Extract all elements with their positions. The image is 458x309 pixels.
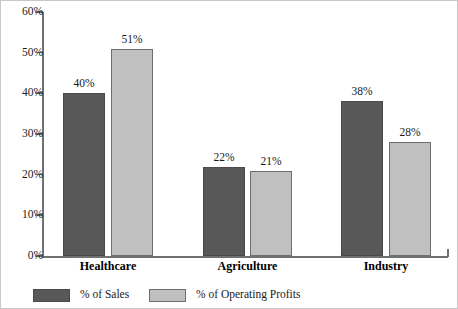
bar-value-label: 21%	[241, 156, 301, 168]
legend-label: % of Operating Profits	[196, 289, 300, 301]
x-axis-end-tick	[447, 249, 449, 257]
category-label: Industry	[316, 260, 456, 272]
bar	[341, 101, 383, 256]
category-label: Agriculture	[178, 260, 318, 272]
x-axis-line	[42, 256, 448, 258]
bar-value-label: 40%	[54, 78, 114, 90]
bar	[63, 93, 105, 256]
y-axis-tick-label: 40%	[11, 87, 43, 99]
legend-swatch	[33, 289, 70, 302]
chart-legend: % of Sales% of Operating Profits	[1, 286, 458, 306]
plot-area: 0%10%20%30%40%50%60% 40%51%22%21%38%28% …	[1, 1, 458, 271]
bar-value-label: 38%	[332, 86, 392, 98]
bar	[111, 49, 153, 256]
bar	[389, 142, 431, 256]
y-axis-tick-label: 60%	[11, 6, 43, 18]
legend-item: % of Sales	[33, 286, 129, 304]
legend-swatch	[149, 289, 186, 302]
legend-item: % of Operating Profits	[149, 286, 300, 304]
y-axis-tick-label: 50%	[11, 47, 43, 59]
category-label: Healthcare	[38, 260, 178, 272]
bar	[250, 171, 292, 256]
legend-label: % of Sales	[80, 289, 129, 301]
bar-value-label: 28%	[380, 127, 440, 139]
bar-value-label: 51%	[102, 34, 162, 46]
y-axis-tick-label: 20%	[11, 169, 43, 181]
y-axis-tick-label: 30%	[11, 128, 43, 140]
y-axis-tick-label: 10%	[11, 209, 43, 221]
bar	[203, 167, 245, 256]
bar-chart: 0%10%20%30%40%50%60% 40%51%22%21%38%28% …	[0, 0, 458, 309]
